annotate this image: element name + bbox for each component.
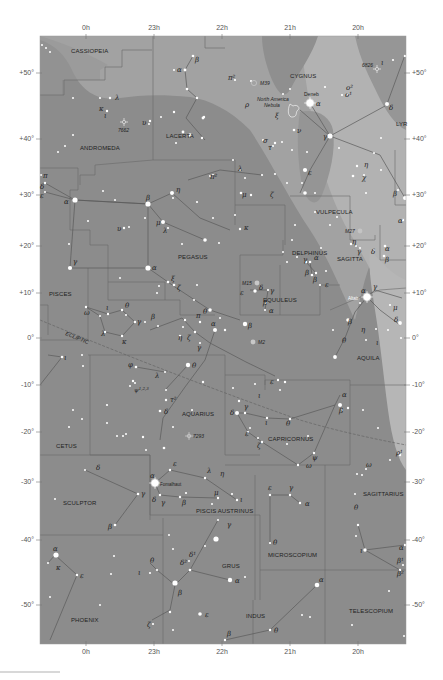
svg-text:π²: π²	[209, 173, 218, 181]
dec-left-0: 0°	[27, 334, 34, 341]
svg-text:α: α	[150, 472, 155, 480]
ra-top-23h: 23h	[148, 24, 160, 31]
svg-text:β²: β²	[396, 570, 404, 578]
svg-text:ε: ε	[40, 192, 44, 200]
ra-top-22h: 22h	[216, 24, 228, 31]
svg-text:λ: λ	[237, 165, 242, 173]
label-sagittarius: SAGITTARIUS	[363, 491, 404, 497]
svg-text:α: α	[53, 545, 58, 553]
svg-text:β: β	[145, 194, 150, 202]
dec-left-20: +20°	[19, 242, 34, 249]
svg-text:ρ: ρ	[244, 101, 250, 109]
svg-text:β: β	[194, 56, 199, 64]
label-ngc7293: 7293	[193, 433, 204, 439]
svg-text:υ: υ	[142, 119, 147, 127]
label-equuleus: EQUULEUS	[263, 297, 297, 303]
svg-text:α: α	[211, 320, 216, 328]
svg-text:δ¹: δ¹	[189, 551, 196, 559]
svg-text:β: β	[150, 313, 155, 321]
svg-text:π²: π²	[227, 74, 236, 82]
svg-text:β: β	[312, 276, 317, 284]
svg-text:β: β	[347, 318, 352, 326]
dec-left-30: +30°	[19, 191, 34, 198]
dec-right-0: 0°	[412, 334, 419, 341]
label-north-america-2: Nebula	[264, 102, 280, 108]
svg-text:β: β	[262, 299, 267, 307]
svg-text:δ: δ	[389, 104, 393, 112]
dec-left-40: +40°	[19, 135, 34, 142]
label-lyra: LYR	[396, 121, 408, 127]
svg-text:β: β	[384, 256, 389, 264]
svg-text:ε: ε	[80, 572, 84, 580]
svg-text:ι: ι	[265, 419, 268, 427]
svg-text:χ: χ	[361, 174, 367, 182]
label-capricornus: CAPRICORNUS	[268, 436, 313, 442]
dec-left-m10: -10°	[21, 381, 34, 388]
label-aquarius: AQUARIUS	[182, 411, 214, 417]
label-altair: Altair	[348, 296, 359, 301]
svg-text:α: α	[305, 500, 310, 508]
ra-bottom-23h: 23h	[148, 648, 160, 655]
svg-text:α: α	[319, 576, 324, 584]
label-ngc7662: 7662	[118, 127, 129, 133]
dec-left-50: +50°	[19, 69, 34, 76]
m27-symbol	[358, 229, 363, 234]
svg-text:φ: φ	[128, 361, 133, 369]
svg-text:ι: ι	[360, 547, 363, 555]
svg-text:ω: ω	[84, 309, 90, 317]
svg-text:ε: ε	[245, 430, 249, 438]
svg-text:λ: λ	[114, 94, 119, 102]
svg-text:π: π	[42, 172, 48, 180]
label-grus: GRUS	[222, 563, 240, 569]
svg-text:ω: ω	[366, 461, 372, 469]
dec-left-m30: -30°	[21, 478, 34, 485]
footer-divider	[0, 671, 60, 673]
svg-text:μ: μ	[214, 489, 219, 497]
ra-bottom-21h: 21h	[284, 648, 296, 655]
svg-text:ι: ι	[104, 112, 107, 120]
label-cetus: CETUS	[56, 443, 77, 449]
svg-text:ε: ε	[205, 611, 209, 619]
svg-text:δ²: δ²	[180, 559, 187, 567]
dec-right-50: +50°	[412, 69, 427, 76]
svg-text:δ: δ	[259, 284, 263, 292]
svg-text:ε: ε	[308, 169, 312, 177]
label-vulpecula: VULPECULA	[316, 209, 353, 215]
svg-text:α: α	[314, 254, 319, 262]
svg-text:α: α	[385, 245, 390, 253]
dec-left-m20: -20°	[21, 428, 34, 435]
ra-axis-top: 0h 23h 22h 21h 20h	[82, 24, 364, 31]
dec-right-10: +10°	[412, 289, 427, 296]
svg-text:μ: μ	[242, 191, 247, 199]
svg-text:μ: μ	[156, 219, 161, 227]
svg-text:τ: τ	[268, 144, 272, 152]
dec-left-m50: -50°	[21, 601, 34, 608]
svg-text:υ: υ	[117, 225, 122, 233]
dec-right-m40: -40°	[412, 536, 425, 543]
dec-axis-right: +50° +40° +30° +20° +10° 0° -10° -20° -3…	[412, 69, 427, 608]
svg-text:κ: κ	[121, 338, 127, 346]
label-andromeda: ANDROMEDA	[80, 145, 120, 151]
svg-text:α: α	[152, 264, 157, 272]
svg-text:ι: ι	[376, 339, 379, 347]
svg-text:ε: ε	[268, 484, 272, 492]
label-lacerta: LACERTA	[166, 133, 194, 139]
svg-text:α: α	[361, 287, 366, 295]
ra-axis-bottom: 0h 23h 22h 21h 20h	[82, 648, 364, 655]
label-m39: M39	[260, 80, 270, 86]
svg-text:δ: δ	[230, 409, 234, 417]
label-cygnus: CYGNUS	[290, 73, 316, 79]
svg-text:ε: ε	[240, 289, 244, 297]
dec-right-m50: -50°	[412, 601, 425, 608]
dec-right-30: +30°	[412, 191, 427, 198]
svg-text:α: α	[398, 217, 403, 225]
label-indus: INDUS	[246, 613, 265, 619]
svg-text:ω: ω	[306, 462, 312, 470]
svg-text:β: β	[226, 630, 231, 638]
svg-text:ι: ι	[106, 304, 109, 312]
svg-text:α: α	[316, 100, 321, 108]
label-microscopium: MICROSCOPIUM	[268, 552, 317, 558]
svg-text:δ: δ	[371, 248, 375, 256]
label-m27: M27	[345, 228, 355, 234]
label-aquila: AQUILA	[357, 355, 380, 361]
